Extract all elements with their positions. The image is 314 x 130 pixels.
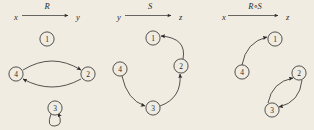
node-3-label: 3 [48,105,62,113]
node-4-label: 4 [113,66,127,74]
node-1-label: 1 [268,36,282,44]
edge-2-to-3 [279,80,302,107]
panel-relation-r: x R y 1 2 4 [0,0,105,130]
digraph-rs-canvas [210,0,314,130]
node-2-label: 2 [292,70,306,78]
node-1-label: 1 [146,35,160,43]
edge-3-to-2 [268,78,293,103]
node-3-label: 3 [146,105,160,113]
relation-composition-figure: x R y 1 2 4 [0,0,314,130]
node-4-label: 4 [9,71,23,79]
edge-4-to-3 [122,76,145,106]
panel-relation-composition: x R∘S z 1 2 4 3 [210,0,314,130]
node-1-label: 1 [40,36,54,44]
edge-2-to-4 [23,79,81,87]
edge-4-to-2 [23,61,81,70]
edge-2-to-1 [161,36,184,59]
node-2-label: 2 [174,63,188,71]
edge-3-to-2 [160,74,180,106]
edge-4-to-1 [242,37,267,65]
node-3-label: 3 [265,107,279,115]
node-4-label: 4 [235,69,249,77]
node-2-label: 2 [81,71,95,79]
panel-relation-s: y S z 1 2 4 3 [105,0,210,130]
